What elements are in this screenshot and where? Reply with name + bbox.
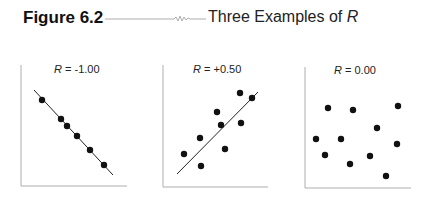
panel2-data-point <box>237 90 243 96</box>
panel2-label: R = +0.50 <box>193 63 241 75</box>
panel3-axes <box>305 67 411 188</box>
panel1-data-point <box>64 123 70 129</box>
panel2-data-point <box>238 120 244 126</box>
panel2-axes <box>163 65 268 187</box>
panel1-data-point <box>101 162 107 168</box>
panel3-data-point <box>322 152 328 158</box>
panel3-var: R <box>334 64 342 76</box>
panel3-data-point <box>350 107 356 113</box>
panel3-data-point <box>338 136 344 142</box>
panel2-var: R <box>193 63 201 75</box>
panel3-data-point <box>325 105 331 111</box>
panel1-data-point <box>58 116 64 122</box>
panel1-fit-line <box>34 90 113 175</box>
axes <box>21 65 411 188</box>
panel3-value: = 0.00 <box>342 64 376 76</box>
panel3-data-point <box>395 103 401 109</box>
header-rule <box>105 16 206 21</box>
panel3-data-point <box>313 136 319 142</box>
panel1-label: R = -1.00 <box>54 63 100 75</box>
panel2-data-point <box>214 109 220 115</box>
panel2-data-point <box>249 95 255 101</box>
panel2-data-point <box>222 146 228 152</box>
panel2-data-point <box>181 151 187 157</box>
panel2-value: = +0.50 <box>201 63 241 75</box>
panel2-data-point <box>198 163 204 169</box>
panel2-data-point <box>218 122 224 128</box>
panel3-label: R = 0.00 <box>334 64 376 76</box>
panel1-data-point <box>39 97 45 103</box>
panel3-data-point <box>383 173 389 179</box>
panel3-data-point <box>374 125 380 131</box>
figure-svg <box>0 0 431 202</box>
panel2-fit-line <box>177 92 258 174</box>
panel1-data-point <box>87 147 93 153</box>
panel1-value: = -1.00 <box>62 63 100 75</box>
panel1-axes <box>21 65 127 186</box>
panel1-data-point <box>74 133 80 139</box>
panel3-data-point <box>394 141 400 147</box>
panel3-data-point <box>367 153 373 159</box>
panel2-data-point <box>197 135 203 141</box>
panel3-data-point <box>347 161 353 167</box>
panel1-var: R <box>54 63 62 75</box>
